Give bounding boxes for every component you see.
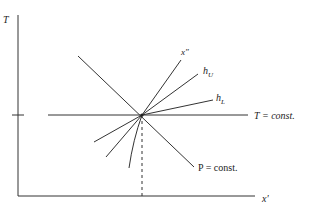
y-axis-label: T	[3, 14, 10, 25]
intersection-point	[140, 113, 143, 116]
h-upper-extension	[106, 115, 142, 157]
isotherm-label: T = const.	[254, 110, 295, 121]
h-upper-label-sub: U	[208, 71, 214, 79]
phase-diagram: T x' T = const. P = const. x" hU hL	[0, 0, 312, 216]
x-double-prime-line	[142, 60, 181, 115]
h-upper-label: hU	[203, 65, 214, 79]
isobar-line	[78, 56, 194, 167]
h-lower-label-sub: L	[220, 98, 225, 106]
h-lower-label: hL	[216, 92, 225, 106]
isobar-label: P = const.	[198, 162, 237, 173]
x-axis-label: x'	[261, 193, 269, 204]
x-double-prime-label: x"	[180, 47, 189, 57]
isobar-label-text: P = const.	[198, 162, 237, 173]
isotherm-label-text: T = const.	[254, 110, 295, 121]
